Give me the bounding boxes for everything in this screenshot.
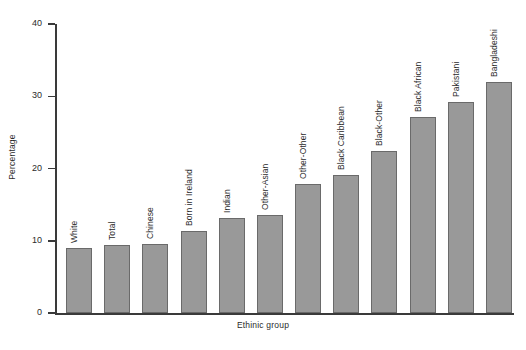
y-axis-title: Percentage xyxy=(7,122,17,192)
y-tick-label: 0 xyxy=(2,307,42,317)
bar-label: Pakistani xyxy=(451,62,461,97)
bar-label: Black Caribbean xyxy=(336,106,346,170)
bar-group[interactable]: Other-Asian xyxy=(257,24,283,313)
bar-label: Chinese xyxy=(145,207,155,239)
bar-label: Other-Asian xyxy=(260,164,270,210)
bar-label: Black African xyxy=(413,62,423,112)
bar-group[interactable]: Total xyxy=(104,24,130,313)
bar-group[interactable]: Black Caribbean xyxy=(333,24,359,313)
bar[interactable] xyxy=(181,231,207,313)
bar-label: Total xyxy=(107,222,117,240)
bar-group[interactable]: Indian xyxy=(219,24,245,313)
bar-group[interactable]: Black-Other xyxy=(371,24,397,313)
bar[interactable] xyxy=(104,245,130,313)
bar[interactable] xyxy=(219,218,245,313)
bar-group[interactable]: Other-Other xyxy=(295,24,321,313)
bar-label: Indian xyxy=(222,189,232,213)
bar-group[interactable]: Black African xyxy=(410,24,436,313)
bar-group[interactable]: White xyxy=(66,24,92,313)
bar[interactable] xyxy=(371,151,397,313)
bar-group[interactable]: Pakistani xyxy=(448,24,474,313)
bar-chart: Percentage 010203040 WhiteTotalChineseBo… xyxy=(0,0,526,350)
y-tick-mark xyxy=(48,312,55,314)
bar[interactable] xyxy=(142,244,168,313)
y-tick-mark xyxy=(48,96,55,98)
bar-label: White xyxy=(69,221,79,243)
bar-group[interactable]: Chinese xyxy=(142,24,168,313)
bar[interactable] xyxy=(333,175,359,313)
x-axis-title: Ethinic group xyxy=(0,320,526,330)
plot-area: WhiteTotalChineseBorn in IrelandIndianOt… xyxy=(56,24,514,313)
y-tick-label: 30 xyxy=(2,90,42,100)
y-tick-label: 40 xyxy=(2,18,42,28)
bar[interactable] xyxy=(257,215,283,313)
y-tick-label: 10 xyxy=(2,235,42,245)
y-tick-mark xyxy=(48,240,55,242)
bar[interactable] xyxy=(66,248,92,313)
bar-label: Other-Other xyxy=(298,133,308,179)
bar-label: Born in Ireland xyxy=(184,169,194,226)
bar[interactable] xyxy=(448,102,474,313)
bar-label: Bangladeshi xyxy=(489,29,499,77)
y-tick-label: 20 xyxy=(2,163,42,173)
bar-label: Black-Other xyxy=(374,100,384,146)
bar[interactable] xyxy=(486,82,512,313)
bar[interactable] xyxy=(410,117,436,313)
bar-group[interactable]: Bangladeshi xyxy=(486,24,512,313)
x-axis-line xyxy=(55,313,514,315)
y-tick-mark xyxy=(48,23,55,25)
y-tick-mark xyxy=(48,168,55,170)
bar-group[interactable]: Born in Ireland xyxy=(181,24,207,313)
bar[interactable] xyxy=(295,184,321,313)
